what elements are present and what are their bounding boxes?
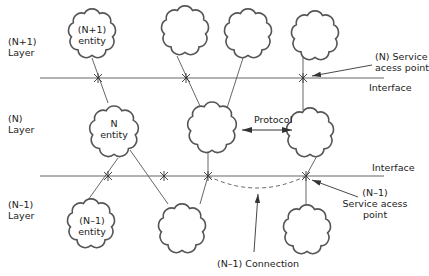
annotation-line: Service acess: [340, 198, 410, 209]
connection-pointer-arrow: [254, 194, 258, 252]
layer-label-line: Layer: [8, 124, 35, 135]
upper-cloud-4: [292, 11, 339, 60]
layer-label-line: (N–1): [8, 199, 35, 210]
n-minus-1-connection-dashed: [208, 176, 306, 188]
annotation-line: acess point: [375, 62, 429, 73]
layer-label-line: Layer: [8, 47, 37, 58]
upper-interface-label: Interface: [369, 82, 412, 93]
middle-cloud-3: [287, 108, 334, 157]
n-minus-1-sap-label: (N–1) Service acess point: [340, 187, 410, 220]
layer-label-n-minus-1: (N–1) Layer: [8, 199, 35, 221]
entity-label-line: entity: [94, 129, 134, 140]
lower-cloud-2: [159, 204, 206, 253]
layer-label-line: (N+1): [8, 36, 37, 47]
annotation-line: (N) Service: [375, 51, 429, 62]
lower-interface-label: Interface: [372, 162, 415, 173]
entity-label-line: entity: [72, 226, 112, 237]
n-entity-label: N entity: [94, 118, 134, 140]
n-plus-1-entity-label: (N+1) entity: [72, 24, 112, 46]
entity-label-line: (N–1): [72, 215, 112, 226]
upper-cloud-3: [225, 9, 272, 58]
lower-cloud-3: [284, 205, 331, 254]
annotation-line: (N–1): [340, 187, 410, 198]
entity-label-line: entity: [72, 35, 112, 46]
n-sap-pointer-arrow: [312, 65, 372, 76]
n-sap-label: (N) Service acess point: [375, 51, 429, 73]
entity-label-line: (N+1): [72, 24, 112, 35]
middle-cloud-2: [188, 102, 237, 152]
entity-label-line: N: [94, 118, 134, 129]
protocol-label: Protocol: [254, 114, 292, 125]
layer-label-line: (N): [8, 113, 35, 124]
layer-label-n: (N) Layer: [8, 113, 35, 135]
upper-cloud-2: [162, 6, 209, 55]
layer-label-line: Layer: [8, 210, 35, 221]
layer-label-n-plus-1: (N+1) Layer: [8, 36, 37, 58]
n-minus-1-entity-label: (N–1) entity: [72, 215, 112, 237]
connection-label: (N–1) Connection: [217, 258, 299, 269]
annotation-line: point: [340, 209, 410, 220]
